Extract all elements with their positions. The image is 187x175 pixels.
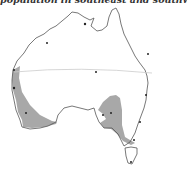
city-marker (145, 94, 147, 96)
city-marker (46, 42, 48, 44)
australia-map (0, 0, 187, 175)
city-marker (110, 112, 112, 114)
southeast-population-zone (98, 95, 135, 145)
city-marker (133, 139, 135, 141)
city-marker (147, 53, 149, 55)
city-marker (130, 161, 132, 163)
southwest-population-zone (12, 66, 57, 128)
tropic-line (14, 69, 152, 73)
city-marker (102, 114, 104, 116)
city-marker (139, 121, 141, 123)
city-marker (13, 69, 15, 71)
city-marker (25, 112, 27, 114)
city-marker (84, 23, 86, 25)
city-marker (13, 87, 15, 89)
city-marker (95, 71, 97, 73)
